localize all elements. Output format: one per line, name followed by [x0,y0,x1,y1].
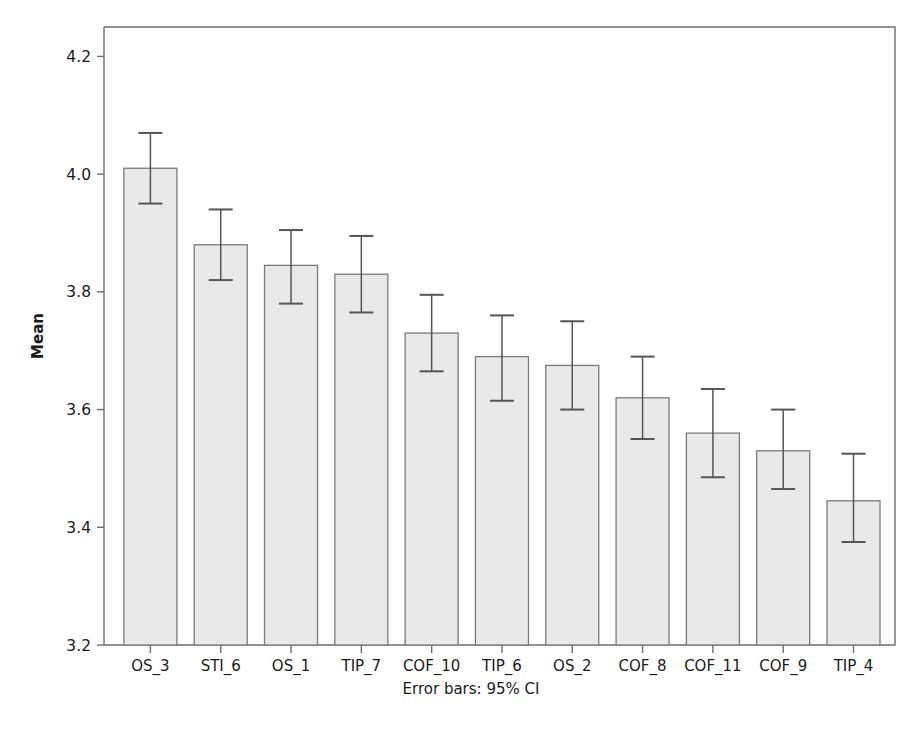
bar [335,274,388,645]
x-tick-label: TIP_7 [340,657,381,676]
bar-group [194,209,247,645]
x-tick-label: COF_11 [684,657,742,676]
chart-figure: 3.23.43.63.84.04.2 Mean OS_3STI_6OS_1TIP… [0,0,923,729]
bar-group [335,236,388,645]
bar [405,333,458,645]
bar-group [124,133,177,645]
bar [265,265,318,645]
bar-group [265,230,318,645]
x-tick-label: OS_3 [131,657,169,676]
y-axis-title: Mean [29,313,47,359]
bar-group [405,295,458,645]
bar [194,245,247,645]
x-tick-label: TIP_6 [481,657,522,676]
x-tick-label: COF_10 [403,657,461,676]
bar-group [616,357,669,645]
y-tick-label: 3.2 [66,637,91,655]
x-tick-label: STI_6 [201,657,241,676]
x-tick-label: TIP_4 [833,657,874,676]
x-tick-label: OS_1 [272,657,310,676]
y-tick-label: 4.0 [66,166,91,184]
x-tick-label: COF_8 [619,657,667,676]
x-tick-label: COF_9 [759,657,807,676]
bar [124,168,177,645]
y-tick-label: 3.6 [66,401,91,419]
y-tick-label: 3.4 [66,519,91,537]
bar-chart-canvas: 3.23.43.63.84.04.2 Mean OS_3STI_6OS_1TIP… [0,0,923,729]
y-tick-label: 4.2 [66,48,91,66]
y-tick-label: 3.8 [66,283,91,301]
bar-group [546,321,599,645]
x-tick-label: OS_2 [553,657,591,676]
bar-group [475,315,528,645]
error-bar-annotation: Error bars: 95% CI [403,680,540,698]
